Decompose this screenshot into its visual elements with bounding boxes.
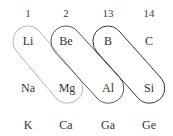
diagonal-relationship-diagram: 1 2 13 14 Li Be B C Na Mg Al Si K Ca Ga … [0, 0, 173, 136]
element-al: Al [102, 82, 114, 94]
element-na: Na [21, 82, 35, 94]
element-mg: Mg [59, 82, 76, 94]
element-ge: Ge [142, 119, 156, 131]
element-k: K [24, 119, 33, 131]
element-c: C [145, 35, 153, 47]
group-label-13: 13 [103, 8, 114, 19]
group-label-1: 1 [25, 8, 31, 19]
element-be: Be [59, 35, 72, 47]
element-b: B [104, 35, 112, 47]
group-label-2: 2 [63, 8, 69, 19]
element-si: Si [144, 82, 154, 94]
group-label-14: 14 [144, 8, 155, 19]
element-ga: Ga [101, 119, 115, 131]
element-ca: Ca [59, 119, 72, 131]
element-li: Li [23, 35, 34, 47]
diagonal-loops [0, 0, 173, 136]
